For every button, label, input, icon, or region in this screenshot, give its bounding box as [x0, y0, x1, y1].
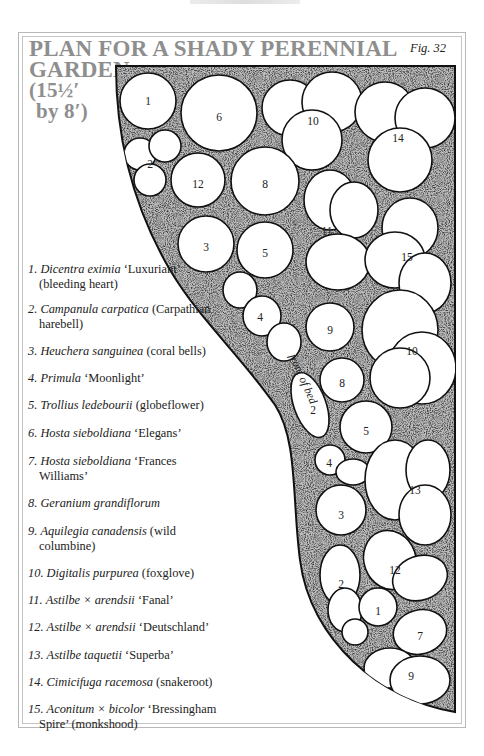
legend-item: 5. Trollius ledebourii (globeflower) — [28, 398, 228, 426]
legend-item: 8. Geranium grandiflorum — [28, 496, 228, 524]
plan-label: 7 — [417, 630, 423, 642]
plan-label: 5 — [262, 247, 268, 259]
plan-label: 9 — [327, 324, 333, 336]
plan-label: 5 — [363, 425, 369, 437]
plan-label: 10 — [307, 115, 319, 127]
plan-label: 6 — [216, 111, 222, 123]
plan-label: 8 — [262, 178, 268, 190]
plan-label: 14 — [392, 132, 404, 144]
plan-label: 2 — [310, 404, 316, 416]
plan-label: 4 — [257, 311, 263, 323]
plan-label: 4 — [326, 457, 332, 469]
legend-item: 2. Campanula carpatica (Carpathianharebe… — [28, 302, 228, 344]
plan-label: 8 — [339, 377, 345, 389]
legend-item: 13. Astilbe taquetii ‘Superba’ — [28, 648, 228, 675]
plan-label: 12 — [192, 178, 204, 190]
plan-label: 13 — [409, 484, 421, 496]
plan-label: 2 — [147, 158, 153, 170]
plan-label: 2 — [338, 578, 344, 590]
plan-label: 3 — [203, 241, 209, 253]
plan-label: 3 — [338, 509, 344, 521]
legend-item: 12. Astilbe × arendsii ‘Deutschland’ — [28, 620, 228, 648]
plan-label: 15 — [401, 251, 413, 263]
legend-item: 4. Primula ‘Moonlight’ — [28, 371, 228, 398]
legend-item: 7. Hosta sieboldiana ‘FrancesWilliams’ — [28, 454, 228, 496]
legend-item: 11. Astilbe × arendsii ‘Fanal’ — [28, 593, 228, 620]
legend-item: 9. Aquilegia canadensis (wildcolumbine) — [28, 524, 228, 566]
legend-item: 15. Aconitum × bicolor ‘BressinghamSpire… — [28, 702, 228, 732]
plan-label: 9 — [408, 670, 414, 682]
legend-item: 10. Digitalis purpurea (foxglove) — [28, 566, 228, 593]
plan-label: 11 — [321, 225, 332, 237]
plan-label: 12 — [389, 564, 401, 576]
legend-item: 1. Dicentra eximia ‘Luxuriant’(bleeding … — [28, 262, 228, 302]
plan-label: 1 — [145, 95, 151, 107]
legend-item: 6. Hosta sieboldiana ‘Elegans’ — [28, 426, 228, 454]
plan-label: 10 — [406, 345, 418, 357]
plant-legend: 1. Dicentra eximia ‘Luxuriant’(bleeding … — [28, 262, 228, 732]
legend-item: 3. Heuchera sanguinea (coral bells) — [28, 344, 228, 371]
plan-label: 1 — [375, 605, 381, 617]
legend-item: 14. Cimicifuga racemosa (snakeroot) — [28, 675, 228, 702]
